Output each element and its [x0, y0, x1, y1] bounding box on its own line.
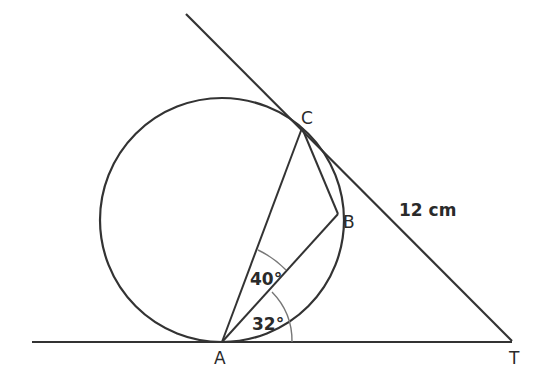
label-point-C: C [301, 108, 313, 128]
angle-arc-CAB [258, 250, 286, 270]
label-angle-CAB: 40° [250, 269, 282, 289]
label-point-A: A [214, 348, 226, 368]
label-point-T: T [508, 348, 520, 368]
label-angle-BAT: 32° [252, 314, 284, 334]
label-point-B: B [343, 212, 355, 232]
label-length-CT: 12 cm [399, 200, 456, 220]
tangent-line-CT [186, 14, 512, 341]
chord-AC [222, 128, 302, 342]
geometry-diagram: C B A T 12 cm 40° 32° [0, 0, 546, 387]
